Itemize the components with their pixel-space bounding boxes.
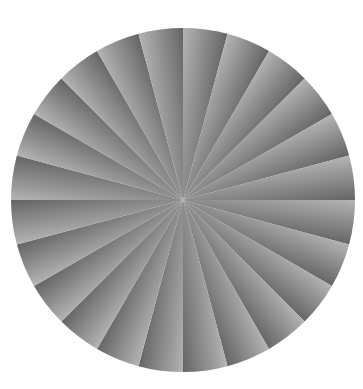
sector-group — [11, 28, 355, 372]
pinwheel-figure — [0, 0, 363, 389]
image-canvas — [0, 0, 363, 389]
